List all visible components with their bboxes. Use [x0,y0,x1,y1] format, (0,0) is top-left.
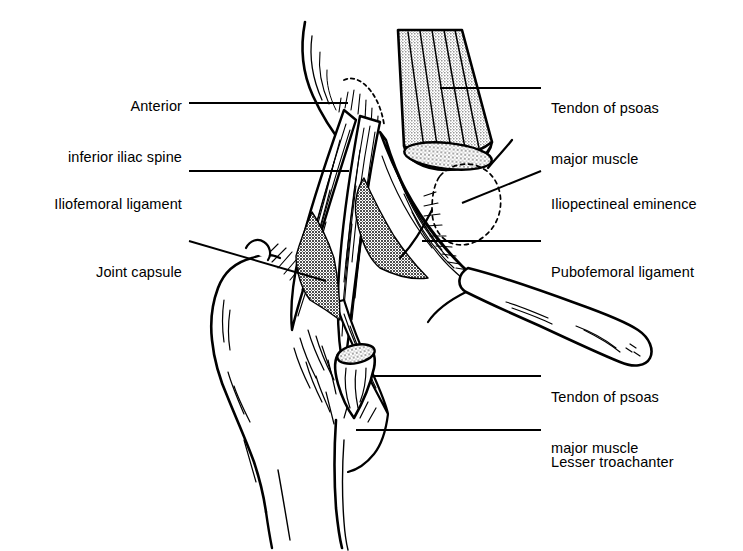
label-joint-capsule: Joint capsule [0,230,182,298]
label-line-1: Tendon of psoas [551,100,743,117]
label-line-1: Iliofemoral ligament [0,196,182,213]
label-lesser-trochanter: Lesser troachanter [551,420,743,488]
psoas-major-tendon-upper [398,30,493,174]
label-line-1: Anterior [0,98,182,115]
label-line-1: Lesser troachanter [551,454,743,471]
capsule-hatching [266,244,300,280]
label-iliofemoral-ligament: Iliofemoral ligament [0,162,182,230]
label-line-1: Iliopectineal eminence [551,196,743,213]
greater-trochanter [211,255,280,512]
label-iliopectineal-eminence: Iliopectineal eminence [551,162,743,230]
femur-striations [294,330,336,424]
label-line-1: Joint capsule [0,264,182,281]
psoas-major-tendon-stump [335,341,376,418]
iliopectineal-eminence [432,164,501,245]
label-line-1: Tendon of psoas [551,389,743,406]
leader-iliopectineal-eminence [462,171,541,203]
label-line-1: Pubofemoral ligament [551,264,743,281]
femur-shaft [266,400,388,550]
label-pubofemoral-ligament: Pubofemoral ligament [551,230,743,298]
